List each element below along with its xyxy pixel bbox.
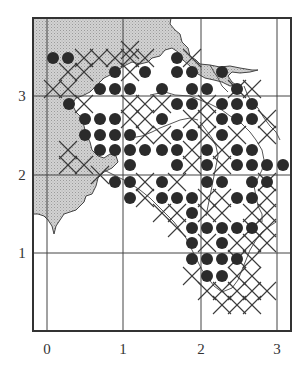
dot-marker [156,83,168,95]
dot-marker [246,113,258,125]
dot-marker [246,98,258,110]
dot-marker [156,144,168,156]
dot-marker [62,52,74,64]
dot-marker [216,113,228,125]
dot-marker [201,270,213,282]
dot-marker [109,66,121,78]
dot-marker [94,129,106,141]
dot-marker [171,159,183,171]
dot-marker [124,129,136,141]
dot-marker [216,253,228,265]
dot-marker [124,176,136,188]
dot-marker [201,144,213,156]
x-tick-label: 0 [43,341,51,357]
dot-marker [216,222,228,234]
dot-marker [171,192,183,204]
dot-marker [156,176,168,188]
dot-marker [231,159,243,171]
dot-marker [171,66,183,78]
dot-marker [171,144,183,156]
dot-marker [171,52,183,64]
y-tick-label: 2 [18,167,26,183]
dot-marker [124,144,136,156]
y-tick-label: 3 [18,88,26,104]
dot-marker [63,98,75,110]
dot-marker [171,129,183,141]
dot-marker [94,83,106,95]
dot-marker [231,144,243,156]
dot-marker [216,176,228,188]
distribution-map: 0123 321 [0,0,305,367]
dot-marker [171,98,183,110]
dot-marker [109,83,121,95]
dot-marker [79,129,91,141]
dot-marker [186,83,198,95]
dot-marker [216,237,228,249]
dot-marker [156,192,168,204]
dot-marker [246,159,258,171]
dot-marker [246,144,258,156]
dot-marker [246,222,258,234]
dot-marker [201,176,213,188]
dot-marker [139,66,151,78]
dot-marker [231,83,243,95]
x-tick-label: 1 [119,341,127,357]
dot-marker [139,144,151,156]
dot-marker [109,176,121,188]
dot-marker [201,159,213,171]
x-tick-label: 3 [273,341,281,357]
dot-marker [47,52,59,64]
dot-marker [231,222,243,234]
dot-marker [231,192,243,204]
dot-marker [201,253,213,265]
dot-marker [277,159,289,171]
dot-marker [109,113,121,125]
map-canvas: 0123 321 [0,0,305,367]
dot-marker [231,113,243,125]
dot-marker [186,237,198,249]
dot-marker [216,129,228,141]
dot-marker [201,83,213,95]
dot-marker [231,253,243,265]
dot-marker [94,113,106,125]
dot-marker [186,98,198,110]
dot-marker [79,113,91,125]
y-tick-label: 1 [18,245,26,261]
dot-marker [186,192,198,204]
x-tick-label: 2 [197,341,205,357]
dot-marker [216,66,228,78]
dot-marker [109,129,121,141]
dot-marker [186,207,198,219]
dot-marker [124,83,136,95]
dot-marker [186,222,198,234]
dot-marker [186,66,198,78]
dot-marker [231,98,243,110]
dot-marker [246,176,258,188]
dot-marker [186,253,198,265]
dot-marker [261,176,273,188]
dot-marker [109,144,121,156]
dot-marker [186,129,198,141]
dot-marker [216,98,228,110]
dot-marker [156,113,168,125]
dot-marker [94,144,106,156]
dot-marker [201,222,213,234]
dot-marker [124,192,136,204]
dot-marker [246,192,258,204]
dot-marker [216,270,228,282]
dot-marker [124,159,136,171]
dot-marker [261,159,273,171]
